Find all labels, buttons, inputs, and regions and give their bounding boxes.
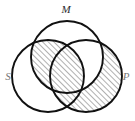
venn-diagram-svg: M S P <box>0 0 135 121</box>
venn-diagram-container: M S P <box>0 0 135 121</box>
label-p: P <box>122 70 130 82</box>
label-m: M <box>60 3 71 15</box>
label-s: S <box>5 70 11 82</box>
